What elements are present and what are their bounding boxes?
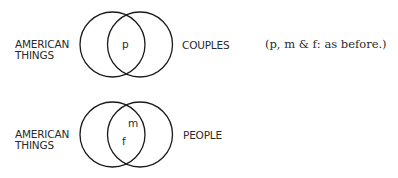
set-circle-people — [108, 102, 173, 167]
venn-diagrams-canvas — [0, 0, 398, 178]
left-set-label-line2: THINGS — [15, 140, 69, 151]
intersection-label-p: p — [122, 38, 128, 50]
note-text: (p, m & f: as before.) — [265, 37, 387, 51]
left-set-label-line2: THINGS — [15, 50, 69, 61]
set-circle-american-things-2 — [80, 102, 145, 167]
left-set-label-2: AMERICAN THINGS — [15, 129, 69, 151]
venn-diagram-2 — [80, 102, 173, 167]
right-set-label-people: PEOPLE — [183, 129, 222, 141]
intersection-label-m: m — [128, 117, 138, 129]
left-set-label-1: AMERICAN THINGS — [15, 39, 69, 61]
set-circle-couples — [108, 12, 173, 77]
intersection-label-f: f — [122, 135, 126, 147]
right-set-label-couples: COUPLES — [182, 39, 229, 51]
set-circle-american-things-1 — [80, 12, 145, 77]
